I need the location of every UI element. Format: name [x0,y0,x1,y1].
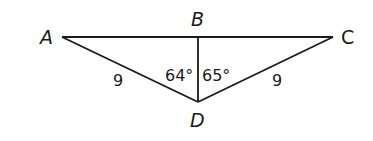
angle-label-bdc: 65° [202,66,230,85]
vertex-label-a: A [38,26,53,48]
side-length-ad: 9 [113,71,123,90]
vertex-label-b: B [191,8,204,30]
triangle-diagram: A B C D 9 9 64° 65° [0,0,373,141]
vertex-label-c: C [341,26,354,48]
angle-label-adb: 64° [165,66,193,85]
side-length-cd: 9 [272,71,282,90]
vertex-label-d: D [190,109,205,131]
